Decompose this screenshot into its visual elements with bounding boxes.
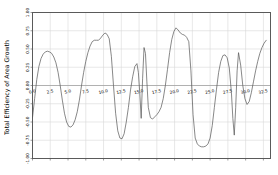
svg-text:0.50: 0.50 (25, 44, 30, 54)
svg-text:-1.00: -1.00 (25, 153, 30, 164)
plot-area: 0.02.55.07.510.012.515.017.520.022.525.0… (0, 0, 278, 175)
svg-text:7.5: 7.5 (82, 88, 90, 94)
svg-text:0.00: 0.00 (25, 81, 30, 91)
svg-text:-0.50: -0.50 (25, 116, 30, 127)
svg-text:0.25: 0.25 (25, 62, 30, 72)
svg-text:20.0: 20.0 (169, 88, 179, 95)
svg-text:1.00: 1.00 (25, 8, 30, 18)
svg-text:0.75: 0.75 (25, 26, 30, 36)
svg-text:-0.25: -0.25 (25, 98, 30, 109)
y-tick-labels: -1.00-0.75-0.50-0.250.000.250.500.751.00 (25, 8, 30, 164)
svg-text:12.5: 12.5 (116, 88, 126, 95)
svg-text:32.5: 32.5 (258, 88, 268, 95)
svg-text:30.0: 30.0 (240, 88, 250, 95)
line-chart-figure: Total Efficiency of Area Growth 0.02.55.… (0, 0, 278, 175)
data-series-line (33, 28, 267, 147)
chart-page: Total Efficiency of Area Growth 0.02.55.… (0, 0, 278, 175)
svg-text:17.5: 17.5 (151, 88, 161, 95)
svg-text:15.0: 15.0 (134, 88, 144, 95)
svg-text:-0.75: -0.75 (25, 135, 30, 146)
x-tick-labels: 0.02.55.07.510.012.515.017.520.022.525.0… (28, 88, 268, 95)
svg-text:10.0: 10.0 (98, 88, 108, 95)
svg-text:2.5: 2.5 (46, 88, 54, 94)
grid-lines (33, 13, 271, 159)
svg-text:25.0: 25.0 (205, 88, 215, 95)
svg-text:5.0: 5.0 (64, 88, 72, 94)
